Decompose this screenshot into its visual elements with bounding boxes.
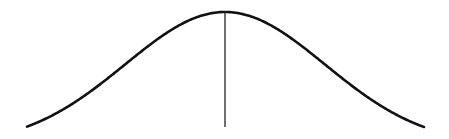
bell-curve-chart [0,0,449,139]
chart-canvas [0,0,449,139]
